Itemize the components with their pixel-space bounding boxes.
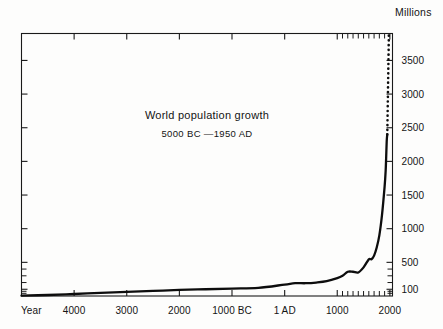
x-tick-label: 4000 [63, 305, 86, 316]
y-tick-label: 100 [402, 284, 419, 295]
axis-ticks [22, 34, 393, 297]
x-tick-label: 3000 [115, 305, 138, 316]
axis-tick-labels: 4000300020001000 BC1 AD10002000100500100… [63, 55, 425, 316]
y-tick-label: 2500 [402, 122, 425, 133]
y-tick-label: 1000 [402, 223, 425, 234]
x-tick-label: 2000 [379, 305, 402, 316]
chart-canvas: 4000300020001000 BC1 AD10002000100500100… [0, 0, 443, 329]
series-line-observed [22, 134, 388, 295]
series-line-projection [387, 36, 389, 135]
chart-subtitle: 5000 BC —1950 AD [161, 128, 252, 139]
chart-title: World population growth [145, 109, 269, 121]
y-tick-label: 1500 [402, 190, 425, 201]
population-growth-chart: Millions 4000300020001000 BC1 AD10002000… [0, 0, 443, 329]
data-series [22, 36, 389, 296]
x-tick-label: 1 AD [274, 305, 296, 316]
x-axis-label: Year [21, 305, 42, 316]
x-tick-label: 2000 [168, 305, 191, 316]
plot-frame [22, 34, 393, 297]
y-tick-label: 2000 [402, 156, 425, 167]
y-tick-label: 3000 [402, 89, 425, 100]
y-tick-label: 500 [402, 257, 419, 268]
y-tick-label: 3500 [402, 55, 425, 66]
x-tick-label: 1000 BC [212, 305, 252, 316]
x-tick-label: 1000 [326, 305, 349, 316]
